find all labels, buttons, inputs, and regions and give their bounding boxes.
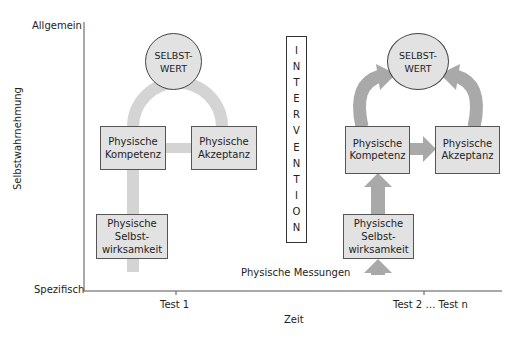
intervention-letter: I [295,45,298,57]
right-self-worth-node: SELBST- WERT [387,33,449,90]
intervention-letter: E [293,93,299,105]
left-self-worth-line1: SELBST- [154,49,192,62]
left-competence-node: Physische Kompetenz [100,126,166,170]
intervention-letter: V [293,125,300,137]
left-self-efficacy-line3: wirksamkeit [102,243,162,256]
right-acceptance-line1: Physische [443,138,492,150]
left-competence-line2: Kompetenz [105,148,161,161]
right-self-worth-line1: SELBST- [399,49,437,62]
right-competence-line2: Kompetenz [349,150,405,162]
physical-measurements-label: Physische Messungen [241,267,350,279]
left-self-efficacy-node: Physische Selbst- wirksamkeit [96,214,168,259]
right-self-efficacy-line2: Selbst- [361,230,395,243]
intervention-letter: R [293,109,300,121]
left-self-worth-node: SELBST- WERT [145,33,202,90]
y-axis-title: Selbstwahrnehmung [12,87,23,190]
right-self-efficacy-node: Physische Selbst- wirksamkeit [343,214,414,259]
y-axis-top-label: Allgemein [32,20,82,32]
x-tick-label-test1: Test 1 [160,299,189,311]
right-competence-line1: Physische [353,138,402,150]
intervention-letter: E [293,142,299,154]
intervention-letter: N [293,61,300,73]
self-perception-model-diagram: Allgemein Spezifisch Selbstwahrnehmung T… [0,0,520,341]
left-competence-line1: Physische [108,135,157,148]
left-self-efficacy-line1: Physische [107,217,156,230]
intervention-letter: T [293,77,299,89]
right-self-efficacy-line1: Physische [354,217,403,230]
left-acceptance-node: Physische Akzeptanz [191,126,257,170]
left-acceptance-line1: Physische [199,135,248,148]
x-tick-label-test2: Test 2 … Test n [393,299,468,311]
intervention-letter: N [293,158,300,170]
left-self-worth-line2: WERT [160,62,187,75]
left-acceptance-line2: Akzeptanz [198,148,250,161]
right-self-efficacy-line3: wirksamkeit [348,243,408,256]
right-self-worth-line2: WERT [404,62,431,75]
intervention-box: I N T E R V E N T I O N [286,36,307,243]
x-axis-title: Zeit [284,314,304,326]
y-axis-bottom-label: Spezifisch [34,284,84,296]
intervention-letter: O [293,206,301,218]
right-acceptance-line2: Akzeptanz [441,150,493,162]
left-self-efficacy-line2: Selbst- [115,230,149,243]
intervention-letter: N [293,222,300,234]
right-competence-node: Physische Kompetenz [345,126,410,174]
intervention-letter: T [293,174,299,186]
intervention-letter: I [295,190,298,202]
right-acceptance-node: Physische Akzeptanz [435,126,500,174]
